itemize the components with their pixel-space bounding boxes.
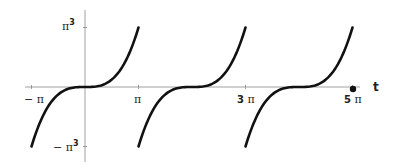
y-tick-pi-cubed: π3 [62,18,75,33]
x-tick-3pi: 3 π [237,93,255,106]
y-tick-neg-pi-cubed: − π3 [53,139,79,154]
x-tick-pi: π [134,93,141,106]
series-curves [32,28,353,147]
x-tick-5pi: 5 π [344,93,362,106]
x-axis-label: t [373,80,379,94]
x-tick-neg-pi: − π [24,93,44,106]
endpoint-dot [350,86,356,92]
